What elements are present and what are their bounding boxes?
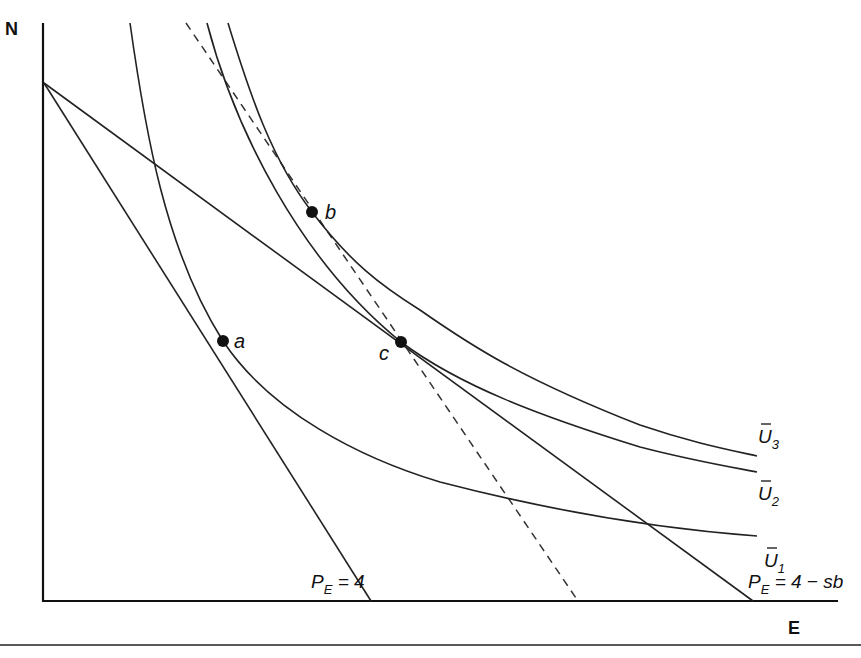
label-budget-subsidized: PE = 4 − sb — [748, 571, 843, 597]
budget-line-compensated — [186, 23, 578, 601]
point-b-label: b — [325, 201, 336, 223]
point-a-label: a — [234, 330, 245, 352]
point-b-marker — [306, 206, 318, 218]
label-u2: U2 — [758, 481, 780, 509]
label-u3: U3 — [758, 424, 780, 452]
svg-text:U2: U2 — [758, 483, 780, 509]
y-axis-label: N — [5, 19, 18, 39]
diagram-canvas: N E a b c U3 U2 U1 PE = 4 PE = 4 − sb — [0, 0, 861, 658]
indifference-curve-u2 — [207, 23, 757, 472]
budget-line-original — [44, 83, 371, 601]
point-c-marker — [395, 336, 407, 348]
svg-text:U3: U3 — [758, 426, 780, 452]
point-a-marker — [217, 335, 229, 347]
x-axis-label: E — [788, 618, 800, 638]
indifference-curve-u1 — [130, 23, 757, 536]
point-c-label: c — [379, 342, 389, 364]
label-budget-original: PE = 4 — [311, 571, 365, 597]
